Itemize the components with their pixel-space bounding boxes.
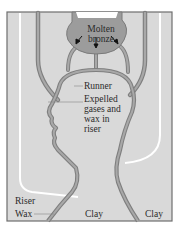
molten-bronze-label: Molten bronze xyxy=(84,24,118,44)
clay-label-outer: Clay xyxy=(145,209,163,219)
bronze-label: bronze xyxy=(84,34,118,44)
expelled-line-1: Expelled xyxy=(84,94,124,104)
molten-label: Molten xyxy=(84,24,118,34)
expelled-line-3: wax in xyxy=(84,114,124,124)
cup-top-white xyxy=(76,12,118,18)
clay-label-inner: Clay xyxy=(85,209,103,219)
expelled-gases-label: Expelled gases and wax in riser xyxy=(84,94,124,134)
expelled-line-4: riser xyxy=(84,124,124,134)
expelled-line-2: gases and xyxy=(84,104,124,114)
runner-label: Runner xyxy=(84,81,112,91)
riser-label: Riser xyxy=(15,196,35,206)
wax-label: Wax xyxy=(15,209,32,219)
